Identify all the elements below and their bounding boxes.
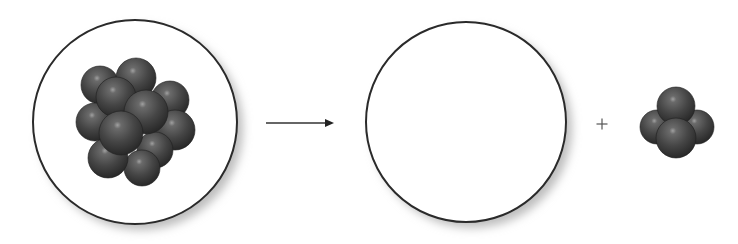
alpha-decay-diagram [0, 0, 738, 244]
nucleon-sphere [99, 111, 143, 155]
parent-nucleus [33, 20, 243, 230]
reaction-arrow [266, 119, 334, 127]
plus-sign-icon [597, 119, 608, 130]
arrow-head-icon [325, 119, 334, 127]
daughter-nucleus [366, 22, 572, 228]
nucleon-sphere [124, 150, 160, 186]
alpha-particle [640, 87, 714, 158]
daughter-circle [366, 22, 566, 222]
nucleon-sphere [656, 118, 696, 158]
